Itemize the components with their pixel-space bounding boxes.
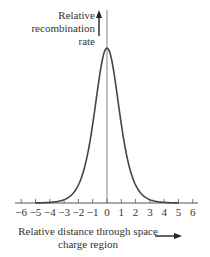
x-arrowhead-icon: [174, 233, 182, 239]
y-label-line-1: Relative: [20, 9, 95, 22]
y-label-line-2: recombination: [20, 22, 95, 35]
x-label-line-1: Relative distance through space: [18, 225, 158, 238]
x-axis-label: Relative distance through space charge r…: [18, 225, 158, 251]
y-axis-label: Relative recombination rate: [20, 9, 95, 48]
x-tick-label: 6: [185, 206, 201, 219]
y-arrowhead-icon: [96, 10, 102, 18]
y-label-line-3: rate: [20, 35, 95, 48]
x-label-line-2: charge region: [18, 238, 158, 251]
